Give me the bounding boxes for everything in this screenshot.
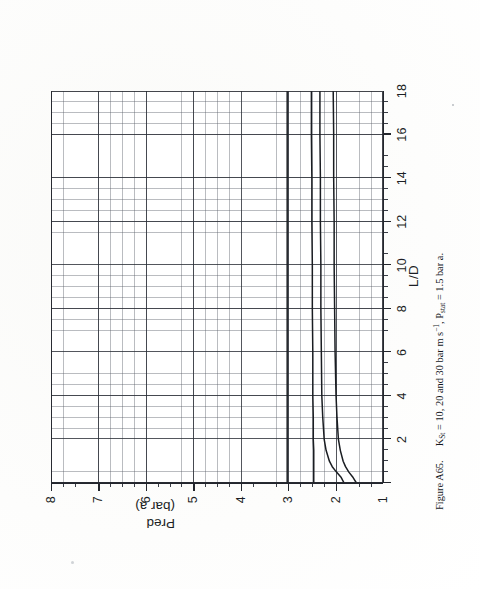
y-tick-label: 1 — [376, 496, 390, 503]
x-tick-label: 6 — [395, 348, 409, 355]
y-tick-label: 3 — [281, 496, 295, 503]
data-curve — [333, 91, 356, 483]
scan-speck — [71, 561, 74, 564]
y-tick-label: 4 — [234, 496, 248, 503]
x-tick-label: 16 — [395, 127, 409, 141]
curve-group — [51, 91, 383, 483]
y-axis-title: Pred (bar a) — [135, 497, 175, 531]
x-tick-label: 4 — [395, 392, 409, 399]
x-axis-major-ticks — [383, 91, 391, 483]
x-tick-label: 12 — [395, 214, 409, 228]
figure-page: 24681012141618 L/D 12345678 Pred (bar a)… — [0, 0, 480, 589]
x-axis-line — [383, 91, 384, 483]
y-axis-line — [51, 483, 383, 484]
x-tick-label: 18 — [395, 83, 409, 97]
x-axis — [383, 91, 392, 483]
x-tick-label: 8 — [395, 305, 409, 312]
x-tick-label: 2 — [395, 435, 409, 442]
plot-area — [51, 91, 383, 483]
x-axis-title: L/D — [406, 264, 421, 286]
y-axis-title-line2: (bar a) — [135, 497, 175, 514]
y-tick-label: 5 — [186, 496, 200, 503]
data-curve — [311, 91, 313, 483]
data-curve — [320, 91, 344, 483]
y-axis — [51, 483, 383, 492]
y-axis-title-line1: Pred — [135, 514, 175, 531]
figure-stage: 24681012141618 L/D 12345678 Pred (bar a) — [25, 45, 455, 545]
y-tick-label: 2 — [329, 496, 343, 503]
y-tick-label: 8 — [44, 496, 58, 503]
x-tick-label: 14 — [395, 170, 409, 184]
y-tick-label: 7 — [91, 496, 105, 503]
